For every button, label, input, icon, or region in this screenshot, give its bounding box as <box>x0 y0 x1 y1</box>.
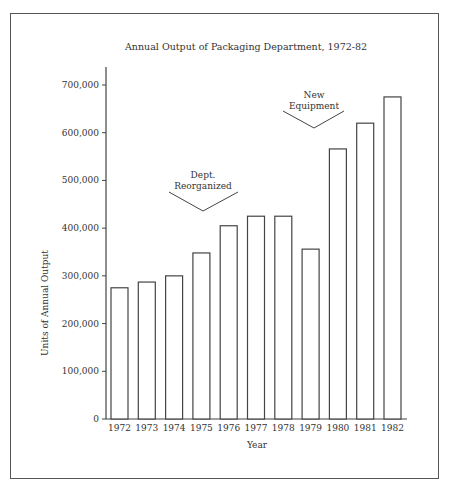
bar-1974 <box>166 276 183 419</box>
x-tick-label: 1982 <box>381 423 404 433</box>
y-tick-label: 500,000 <box>62 175 99 185</box>
y-tick-label: 300,000 <box>62 271 99 281</box>
annotations: Dept.ReorganizedNewEquipment <box>169 90 344 211</box>
bar-1982 <box>384 97 401 419</box>
bar-1976 <box>220 226 237 419</box>
bar-1978 <box>275 216 292 419</box>
svg-text:Dept.: Dept. <box>191 170 216 180</box>
x-axis-label: Year <box>246 440 268 450</box>
bar-1973 <box>138 282 155 419</box>
x-tick-label: 1972 <box>108 423 131 433</box>
x-tick-label: 1980 <box>326 423 349 433</box>
x-tick-label: 1976 <box>217 423 240 433</box>
bar-1981 <box>357 123 374 419</box>
bars <box>111 97 401 419</box>
bar-1980 <box>329 149 346 419</box>
y-tick-label: 700,000 <box>62 80 99 90</box>
y-tick-label: 100,000 <box>62 366 99 376</box>
chart-title: Annual Output of Packaging Department, 1… <box>124 41 367 52</box>
bar-1972 <box>111 288 128 419</box>
y-tick-label: 0 <box>93 414 99 424</box>
x-tick-label: 1978 <box>272 423 295 433</box>
svg-text:New: New <box>304 90 325 100</box>
svg-text:Reorganized: Reorganized <box>174 181 232 191</box>
y-tick-label: 200,000 <box>62 319 99 329</box>
x-tick-label: 1979 <box>299 423 322 433</box>
y-tick-label: 600,000 <box>62 128 99 138</box>
svg-text:Equipment: Equipment <box>289 101 339 111</box>
y-tick-label: 400,000 <box>62 223 99 233</box>
x-axis: 1972197319741975197619771978197919801981… <box>106 419 407 433</box>
bar-1979 <box>302 249 319 419</box>
bar-1975 <box>193 253 210 419</box>
annotation-1975: Dept.Reorganized <box>169 170 238 211</box>
x-tick-label: 1973 <box>135 423 158 433</box>
bar-1977 <box>248 216 265 419</box>
annotation-1979: NewEquipment <box>283 90 344 128</box>
y-axis-label: Units of Annual Output <box>40 250 50 356</box>
bar-chart: Annual Output of Packaging Department, 1… <box>0 0 450 488</box>
x-tick-label: 1977 <box>245 423 268 433</box>
x-tick-label: 1975 <box>190 423 213 433</box>
x-tick-label: 1974 <box>163 423 186 433</box>
y-axis: 0100,000200,000300,000400,000500,000600,… <box>62 67 106 424</box>
x-tick-label: 1981 <box>354 423 377 433</box>
